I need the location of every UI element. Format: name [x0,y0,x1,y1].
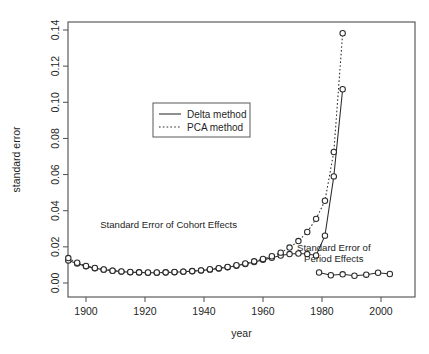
data-point [260,256,265,261]
x-tick-label: 1920 [133,305,157,317]
data-point [340,87,345,92]
data-point [340,272,345,277]
data-point [225,264,230,269]
x-tick-label: 2000 [369,305,393,317]
data-point [251,259,256,264]
chart-canvas: 0.000.020.040.060.080.100.120.1419001920… [0,0,429,354]
x-axis-label: year [231,327,252,339]
y-tick-label: 0.06 [49,164,61,185]
data-point [316,270,321,275]
x-tick-label: 1900 [74,305,98,317]
data-point [163,270,168,275]
annotation-period-effects: Standard Error of [297,242,371,253]
data-point [322,198,327,203]
data-point [243,261,248,266]
x-tick-label: 1980 [310,305,334,317]
y-tick-label: 0.00 [49,273,61,294]
data-point [216,265,221,270]
data-point [331,174,336,179]
y-tick-label: 0.14 [49,20,61,41]
data-point [190,268,195,273]
data-point [328,273,333,278]
data-point [128,269,133,274]
data-point [364,272,369,277]
data-point [181,269,186,274]
data-point [322,233,327,238]
data-point [172,269,177,274]
y-tick-label: 0.10 [49,92,61,113]
y-tick-label: 0.04 [49,200,61,221]
annotation-period-effects: Period Effects [304,253,364,264]
data-point [387,271,392,276]
legend-label: PCA method [187,122,243,133]
data-point [119,269,124,274]
data-point [145,270,150,275]
chart-figure: 0.000.020.040.060.080.100.120.1419001920… [0,0,429,354]
y-axis-label: standard error [10,126,22,192]
legend-label: Delta method [187,109,246,120]
data-point [154,270,159,275]
data-point [278,250,283,255]
data-point [287,251,292,256]
data-point [83,263,88,268]
data-point [269,254,274,259]
data-point [92,265,97,270]
data-point [313,216,318,221]
data-point [375,270,380,275]
x-tick-label: 1960 [251,305,275,317]
data-point [234,263,239,268]
annotation-cohort-effects: Standard Error of Cohort Effects [100,219,237,230]
data-point [101,267,106,272]
data-point [331,149,336,154]
data-point [136,270,141,275]
data-point [74,260,79,265]
data-point [207,267,212,272]
y-tick-label: 0.02 [49,236,61,257]
x-tick-label: 1940 [192,305,216,317]
data-point [66,255,71,260]
data-point [110,268,115,273]
data-point [305,229,310,234]
y-tick-label: 0.08 [49,128,61,149]
y-tick-label: 0.12 [49,56,61,77]
data-point [198,268,203,273]
data-point [352,273,357,278]
series-line-cohort-pca [68,33,342,272]
data-point [340,31,345,36]
data-point [287,245,292,250]
